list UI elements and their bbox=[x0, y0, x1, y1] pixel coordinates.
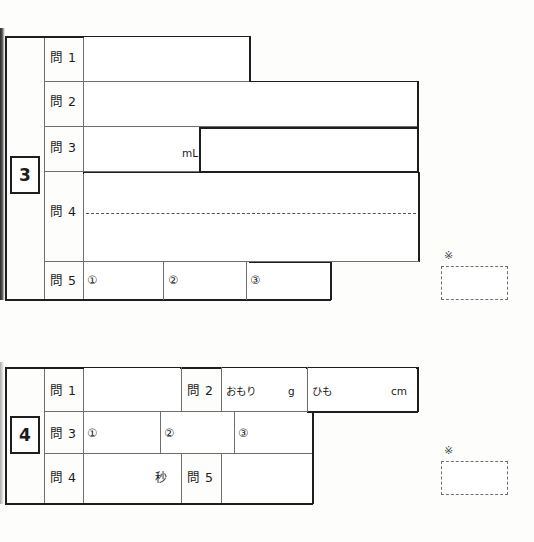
row-4-q3-subnum-3: ③ bbox=[238, 428, 248, 440]
row-3-q4-bottom-rule bbox=[44, 261, 419, 262]
section-4-left-border bbox=[5, 367, 7, 504]
row-4-q5-label-left-divider bbox=[181, 453, 182, 503]
row-3-q5-right-border bbox=[330, 262, 332, 300]
row-4-q4-unit-byou: 秒 bbox=[155, 472, 168, 484]
row-4-q3-subnum-1: ① bbox=[87, 428, 97, 440]
row-4-q3-right-border bbox=[312, 411, 314, 504]
row-3-q4-writing-guide-line bbox=[86, 213, 416, 214]
question-number-badge-4: 4 bbox=[10, 416, 40, 454]
row-4-q2-unit-cm: cm bbox=[391, 386, 407, 397]
row-3-q4-answer-cell[interactable] bbox=[84, 173, 418, 261]
row-4-q2-prefix-omori: おもり bbox=[226, 386, 256, 397]
row-3-q1-answer-cell[interactable] bbox=[84, 37, 249, 81]
row-4-q1-answer-cell[interactable] bbox=[84, 368, 180, 410]
section-4-bottom-border bbox=[5, 503, 313, 505]
row-3-q4-label: 問 4 bbox=[50, 206, 76, 219]
row-3-q5-subnum-1: ① bbox=[87, 275, 97, 287]
row-3-q3-answer-cell-1[interactable] bbox=[84, 128, 198, 171]
row-4-q3-label: 問 3 bbox=[50, 428, 76, 441]
row-3-q1-right-border bbox=[249, 36, 251, 82]
section-4-score-star: ※ bbox=[444, 445, 453, 456]
section-3-score-star: ※ bbox=[444, 250, 453, 261]
row-3-q3-label: 問 3 bbox=[50, 142, 76, 155]
question-number-3-text: 3 bbox=[19, 165, 31, 185]
section-3-bottom-border bbox=[5, 299, 331, 301]
section-3-left-border bbox=[5, 36, 7, 300]
row-3-q5-subnum-3: ③ bbox=[250, 275, 260, 287]
row-4-q5-label: 問 5 bbox=[187, 472, 213, 485]
row-4-q2-label: 問 2 bbox=[187, 385, 213, 398]
section-3-score-box[interactable] bbox=[441, 266, 508, 300]
row-4-q3-subnum-2: ② bbox=[164, 428, 174, 440]
row-4-q2-prefix-himo: ひも bbox=[312, 386, 332, 397]
row-4-q1-bottom-rule bbox=[44, 411, 308, 412]
row-3-q2-answer-cell[interactable] bbox=[84, 82, 417, 126]
row-4-q2-label-left-divider bbox=[181, 367, 182, 411]
row-4-q2-bottom-border-right bbox=[307, 411, 418, 413]
section-4-badge-col-divider bbox=[44, 367, 45, 504]
row-4-q1-label: 問 1 bbox=[50, 385, 76, 398]
row-3-q2-label: 問 2 bbox=[50, 96, 76, 109]
section-4-score-box[interactable] bbox=[441, 461, 508, 495]
row-4-q2-right-border bbox=[417, 367, 419, 412]
answer-sheet-page: 3 問 1 問 2 問 3 mL 問 4 bbox=[0, 0, 534, 542]
question-number-4-text: 4 bbox=[19, 425, 31, 445]
scan-edge-shadow-lower bbox=[0, 362, 4, 504]
row-3-q4-right-border bbox=[418, 172, 420, 262]
row-3-q3-unit-ml: mL bbox=[182, 148, 198, 159]
question-number-badge-3: 3 bbox=[10, 156, 40, 194]
row-4-q2-unit-g: g bbox=[288, 386, 295, 397]
row-3-q3-right-border bbox=[417, 127, 419, 172]
row-3-q2-right-border bbox=[417, 81, 419, 127]
row-3-q5-subnum-2: ② bbox=[168, 275, 178, 287]
row-4-q4-label: 問 4 bbox=[50, 472, 76, 485]
row-3-q5-label: 問 5 bbox=[50, 275, 76, 288]
row-3-q1-label: 問 1 bbox=[50, 52, 76, 65]
row-4-q5-answer-cell[interactable] bbox=[222, 454, 312, 503]
row-3-q3-answer-cell-2[interactable] bbox=[201, 129, 416, 170]
